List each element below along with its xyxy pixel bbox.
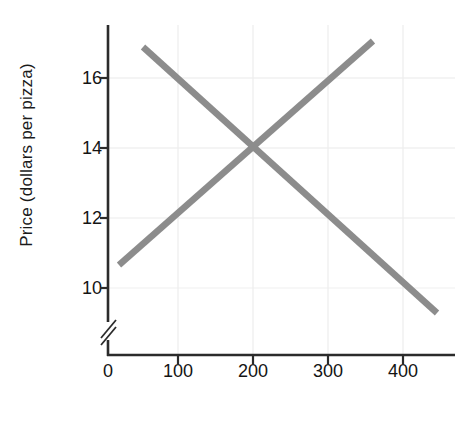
- plot-area: [0, 0, 472, 437]
- supply-curve: [119, 41, 373, 265]
- chart-figure: Price (dollars per pizza) 16 14 12 10 0 …: [0, 0, 472, 437]
- vertical-gridlines: [178, 25, 403, 355]
- x-axis-ticks: [178, 355, 403, 364]
- demand-curve: [143, 47, 437, 313]
